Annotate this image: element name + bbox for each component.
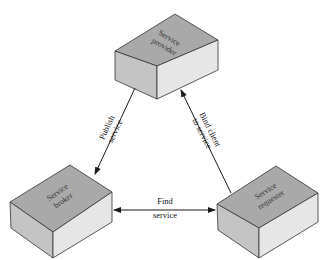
publish-service-edge: Publish service [95,88,135,174]
soa-diagram: Service provider Service broker Service … [0,0,328,260]
service-requester-box: Service requester [217,166,318,258]
bind-client-edge: Bind client to service [181,90,231,193]
find-service-edge: Find service [114,196,215,220]
service-provider-box: Service provider [115,14,218,99]
service-broker-box: Service broker [10,165,112,258]
find-label-line2: service [153,210,177,220]
find-label-line1: Find [157,196,173,206]
